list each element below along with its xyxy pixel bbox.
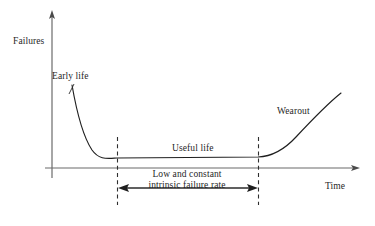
- annotation-wearout: Wearout: [277, 106, 310, 117]
- bathtub-curve-figure: Failures Early life Useful life Wearout …: [0, 0, 375, 226]
- annotation-intrinsic-failure-rate-line1: Low and constant: [143, 169, 231, 180]
- bathtub-curve-plot: [0, 0, 375, 226]
- annotation-intrinsic-failure-rate-line2: intrinsic failure rate: [143, 180, 231, 191]
- y-axis-label: Failures: [13, 36, 44, 47]
- annotation-early-life: Early life: [52, 71, 89, 82]
- annotation-useful-life: Useful life: [172, 143, 213, 154]
- x-axis-label: Time: [325, 181, 345, 192]
- annotation-intrinsic-failure-rate: Low and constant intrinsic failure rate: [143, 169, 231, 191]
